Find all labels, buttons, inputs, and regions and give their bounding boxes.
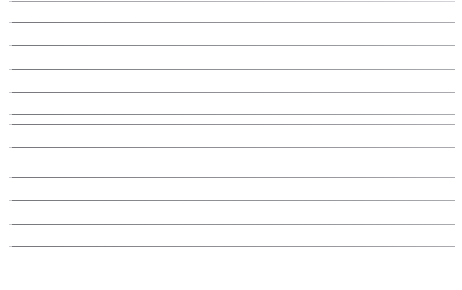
bottom-margin bbox=[0, 252, 462, 290]
rule-line bbox=[12, 147, 455, 148]
ruled-paper-page: Ruled Paper bbox=[0, 0, 462, 290]
ruled-writing-area[interactable] bbox=[0, 0, 462, 290]
rule-line bbox=[12, 114, 455, 115]
rule-line bbox=[12, 124, 455, 125]
rule-line bbox=[12, 177, 455, 178]
rule-line bbox=[12, 69, 455, 70]
rule-line bbox=[12, 246, 455, 247]
rule-line bbox=[12, 1, 455, 2]
rule-line bbox=[12, 92, 455, 93]
rule-line bbox=[12, 22, 455, 23]
rule-line bbox=[12, 45, 455, 46]
rule-line bbox=[12, 200, 455, 201]
rule-line bbox=[12, 224, 455, 225]
